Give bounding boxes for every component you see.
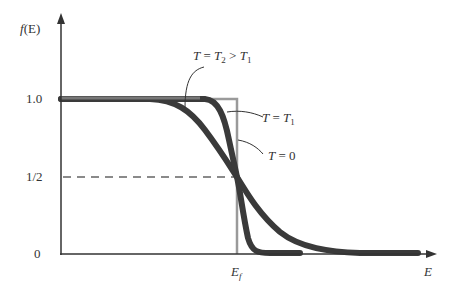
y-tick-1: 1.0 xyxy=(26,91,42,106)
x-axis-label: E xyxy=(423,264,432,279)
y-tick-half: 1/2 xyxy=(26,169,43,184)
y-tick-0: 0 xyxy=(34,246,41,261)
y-axis-arrow-icon xyxy=(57,13,65,24)
x-tick-ef: Ef xyxy=(230,264,243,281)
annotation-t2: T = T2 > T1 xyxy=(193,48,251,65)
annotation-t0: T = 0 xyxy=(268,148,296,163)
x-axis-arrow-icon xyxy=(426,250,437,258)
leader-t1 xyxy=(227,111,263,117)
leader-t0 xyxy=(238,140,263,154)
fermi-dirac-chart: f(E) 1.0 1/2 0 Ef E T = T2 > T1 T = T1 T… xyxy=(0,0,458,294)
annotation-t1: T = T1 xyxy=(262,110,295,127)
y-axis-label: f(E) xyxy=(20,21,40,36)
